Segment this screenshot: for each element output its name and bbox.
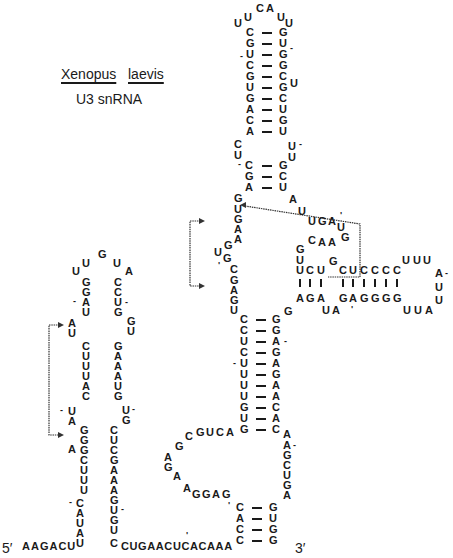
five-prime-end: 5′ [2,540,12,556]
linker-sequence: CUGAACUCACAAA [121,541,233,552]
three-prime-end: 3′ [295,540,305,556]
five-prime-tail: AAGACU [22,541,76,552]
